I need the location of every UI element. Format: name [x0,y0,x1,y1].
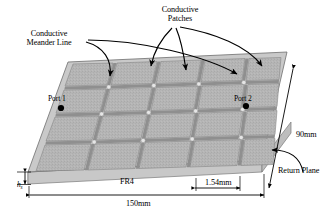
patch [145,113,195,139]
patch [190,140,241,168]
junction-node [107,85,111,89]
callout-meander-line1: Conductive [31,29,68,38]
junction-node [100,112,104,116]
patch [88,143,141,171]
patch [156,60,201,84]
junction-node [194,109,198,113]
port2-label: Port 2 [234,95,252,103]
patch [46,116,99,141]
patch [194,112,243,138]
junction-node [92,140,96,144]
patch [104,88,152,113]
patch [96,115,147,141]
port2-marker-dot [243,103,249,109]
port1-label: Port 1 [48,95,66,103]
junction-node [147,110,151,114]
dimension-label-150mm: 150mm [126,200,151,209]
callout-label-conductive-patches: Conductive Patches [144,6,216,24]
junction-node [190,137,194,141]
patch [65,63,113,86]
patch [241,139,275,166]
patch [36,144,91,171]
dimension-label-thickness-hs: hs [17,181,23,191]
patch [151,86,198,111]
patch [201,59,245,83]
junction-node [152,83,156,87]
patch [246,58,281,81]
junction-node [197,82,201,86]
dimension-label-90mm: 90mm [296,131,317,140]
junction-node [242,80,246,84]
thickness-subscript: s [21,184,23,190]
junction-node [239,135,243,139]
callout-patches-line1: Conductive [162,5,199,14]
patch [243,111,277,136]
junction-node [141,138,145,142]
figure-root: Conductive Meander Line Conductive Patch… [0,0,334,219]
return-plane-label: Return Plane [278,167,319,176]
callout-patches-line2: Patches [168,14,192,23]
callout-meander-line2: Meander Line [27,38,72,47]
patch [139,141,191,169]
callout-label-meander-line: Conductive Meander Line [11,30,87,48]
patch [111,62,157,86]
port1-marker-dot [58,105,64,111]
dimension-label-154mm: 1.54mm [205,179,231,188]
substrate-material-label: FR4 [120,178,134,187]
